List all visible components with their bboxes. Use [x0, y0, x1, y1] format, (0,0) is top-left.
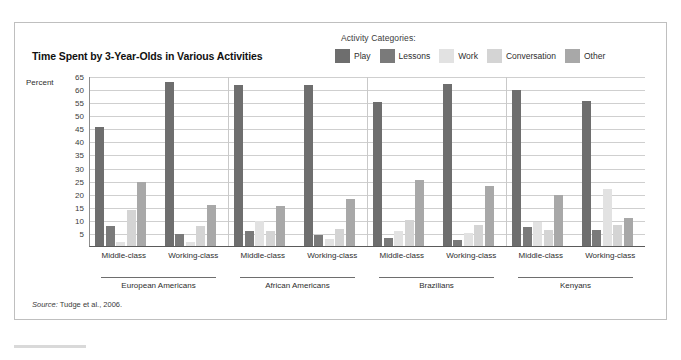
class-label: Working-class: [576, 251, 646, 262]
group-rule: [101, 277, 216, 278]
class-label: Middle-class: [367, 251, 437, 262]
y-axis-tick: 5: [80, 229, 84, 238]
y-axis-tick: 35: [75, 151, 84, 160]
plot-frame: [89, 77, 645, 247]
class-label: Middle-class: [228, 251, 298, 262]
group-rule: [379, 277, 494, 278]
class-label: Working-class: [159, 251, 229, 262]
y-axis-tick: 10: [75, 216, 84, 225]
legend-swatch-lessons: [380, 49, 395, 63]
legend-label: Conversation: [506, 51, 556, 61]
figure-panel: Activity Categories: PlayLessonsWorkConv…: [14, 22, 667, 320]
y-axis-tick: 50: [75, 112, 84, 121]
y-axis-tick: 45: [75, 125, 84, 134]
source-prefix: Source:: [32, 300, 58, 309]
class-label: Middle-class: [89, 251, 159, 262]
group-rule: [240, 277, 355, 278]
y-axis-ticks: 6560555045403530252015105: [62, 77, 84, 247]
legend-item[interactable]: Work: [439, 49, 478, 63]
legend-label: Lessons: [399, 51, 431, 61]
class-label: Working-class: [437, 251, 507, 262]
y-axis-tick: 65: [75, 73, 84, 82]
y-axis-tick: 40: [75, 138, 84, 147]
y-axis-tick: 55: [75, 99, 84, 108]
legend-item[interactable]: Play: [335, 49, 371, 63]
x-axis-labels: Middle-classWorking-classEuropean Americ…: [89, 251, 645, 317]
chart-title: Time Spent by 3-Year-Olds in Various Act…: [32, 50, 262, 62]
group-label: African Americans: [228, 281, 367, 292]
legend-label: Other: [584, 51, 605, 61]
legend-label: Play: [354, 51, 371, 61]
legend-title: Activity Categories:: [335, 33, 655, 43]
plot-area: [89, 77, 645, 247]
group-label: European Americans: [89, 281, 228, 292]
legend-item[interactable]: Lessons: [380, 49, 431, 63]
legend-item[interactable]: Conversation: [487, 49, 556, 63]
y-axis-tick: 20: [75, 190, 84, 199]
y-axis-tick: 60: [75, 86, 84, 95]
y-axis-title: Percent: [26, 78, 54, 87]
source-text: Tudge et al., 2006.: [58, 300, 122, 309]
legend-swatch-play: [335, 49, 350, 63]
bottom-rule: [14, 345, 86, 348]
legend-item[interactable]: Other: [565, 49, 605, 63]
legend-swatch-conversation: [487, 49, 502, 63]
class-label: Middle-class: [506, 251, 576, 262]
group-rule: [518, 277, 633, 278]
legend: Activity Categories: PlayLessonsWorkConv…: [335, 33, 655, 63]
group-label: Brazilians: [367, 281, 506, 292]
legend-label: Work: [458, 51, 478, 61]
group-label: Kenyans: [506, 281, 645, 292]
source-note: Source: Tudge et al., 2006.: [32, 300, 122, 309]
legend-items: PlayLessonsWorkConversationOther: [335, 49, 655, 63]
y-axis-tick: 15: [75, 203, 84, 212]
legend-swatch-work: [439, 49, 454, 63]
class-label: Working-class: [298, 251, 368, 262]
legend-swatch-other: [565, 49, 580, 63]
y-axis-tick: 25: [75, 177, 84, 186]
y-axis-tick: 30: [75, 164, 84, 173]
